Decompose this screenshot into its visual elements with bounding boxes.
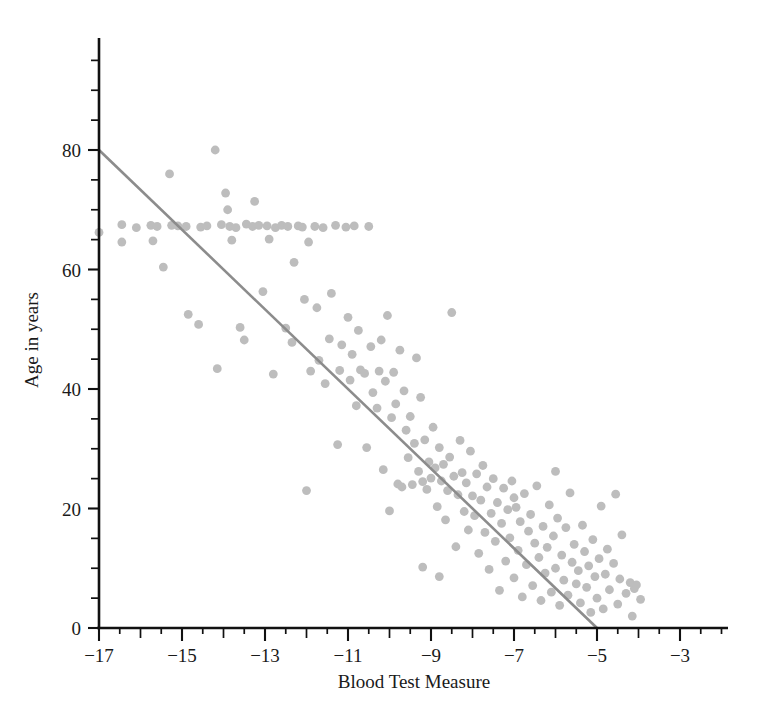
y-axis	[88, 38, 99, 629]
data-point	[474, 549, 483, 558]
data-point	[259, 287, 268, 296]
data-point	[580, 547, 589, 556]
data-point	[495, 586, 504, 595]
data-point	[373, 404, 382, 413]
data-point	[601, 570, 610, 579]
data-point	[526, 510, 535, 519]
data-point	[535, 553, 544, 562]
data-point	[568, 558, 577, 567]
data-point	[236, 323, 245, 332]
data-point	[615, 575, 624, 584]
data-point	[194, 320, 203, 329]
data-point	[547, 588, 556, 597]
y-axis-tick-labels: 020406080	[62, 140, 81, 639]
data-point	[379, 465, 388, 474]
data-point	[462, 478, 471, 487]
data-point	[223, 205, 232, 214]
data-point	[232, 223, 241, 232]
data-point	[557, 551, 566, 560]
data-point	[605, 585, 614, 594]
data-point	[165, 170, 174, 179]
data-point	[159, 263, 168, 272]
data-point	[348, 350, 357, 359]
data-points-layer	[95, 146, 645, 621]
data-point	[588, 535, 597, 544]
data-point	[227, 236, 236, 245]
data-point	[435, 443, 444, 452]
data-point	[510, 573, 519, 582]
data-point	[595, 554, 604, 563]
data-point	[611, 490, 620, 499]
data-point	[290, 258, 299, 267]
data-point	[481, 528, 490, 537]
data-point	[283, 222, 292, 231]
x-tick-label: −15	[167, 645, 197, 666]
data-point	[420, 435, 429, 444]
data-point	[520, 489, 529, 498]
data-point	[553, 514, 562, 523]
data-point	[321, 379, 330, 388]
data-point	[632, 581, 641, 590]
data-point	[472, 469, 481, 478]
data-point	[117, 238, 126, 247]
data-point	[468, 492, 477, 501]
data-point	[375, 367, 384, 376]
data-point	[584, 561, 593, 570]
data-point	[310, 222, 319, 231]
data-point	[609, 559, 618, 568]
data-point	[487, 509, 496, 518]
data-point	[439, 460, 448, 469]
data-point	[447, 308, 456, 317]
data-point	[217, 220, 226, 229]
data-point	[414, 467, 423, 476]
plot-canvas: −17−15−13−11−9−7−5−3 020406080 Blood Tes…	[0, 0, 764, 714]
data-point	[383, 311, 392, 320]
data-point	[298, 223, 307, 232]
data-point	[464, 526, 473, 535]
data-point	[441, 515, 450, 524]
x-tick-label: −7	[504, 645, 524, 666]
data-point	[369, 388, 378, 397]
data-point	[346, 376, 355, 385]
data-point	[337, 340, 346, 349]
y-tick-label: 40	[62, 379, 81, 400]
data-point	[636, 595, 645, 604]
data-point	[483, 483, 492, 492]
data-point	[410, 439, 419, 448]
data-point	[412, 354, 421, 363]
data-point	[572, 579, 581, 588]
data-point	[406, 412, 415, 421]
data-point	[561, 523, 570, 532]
data-point	[398, 483, 407, 492]
y-axis-title: Age in years	[21, 292, 42, 388]
data-point	[516, 517, 525, 526]
x-tick-label: −5	[587, 645, 607, 666]
data-point	[153, 222, 162, 231]
data-point	[485, 565, 494, 574]
data-point	[335, 366, 344, 375]
data-point	[539, 522, 548, 531]
data-point	[549, 532, 558, 541]
data-point	[518, 593, 527, 602]
data-point	[354, 326, 363, 335]
data-point	[149, 236, 158, 245]
data-point	[240, 336, 249, 345]
data-point	[400, 386, 409, 395]
y-tick-label: 60	[62, 260, 81, 281]
data-point	[377, 336, 386, 345]
data-point	[576, 599, 585, 608]
data-point	[501, 557, 510, 566]
data-point	[418, 563, 427, 572]
data-point	[537, 596, 546, 605]
data-point	[429, 423, 438, 432]
data-point	[300, 295, 309, 304]
data-point	[456, 436, 465, 445]
y-tick-label: 80	[62, 140, 81, 161]
data-point	[250, 197, 259, 206]
data-point	[499, 484, 508, 493]
data-point	[574, 566, 583, 575]
regression-line	[99, 150, 597, 628]
data-point	[427, 474, 436, 483]
data-point	[381, 377, 390, 386]
data-point	[306, 367, 315, 376]
